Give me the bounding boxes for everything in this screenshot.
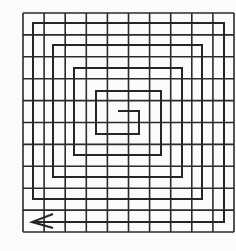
spiral-grid-figure xyxy=(0,0,236,251)
background xyxy=(0,0,236,251)
